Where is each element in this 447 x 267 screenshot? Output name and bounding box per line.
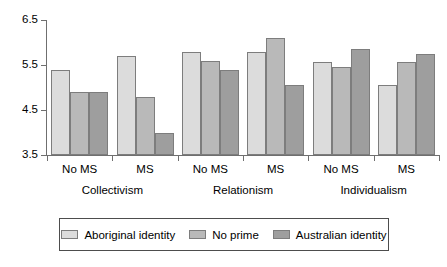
bar xyxy=(397,62,416,155)
bar xyxy=(201,61,220,156)
legend-label: Aboriginal identity xyxy=(84,229,175,241)
bar xyxy=(70,92,89,155)
legend-item: No prime xyxy=(189,229,259,241)
legend-swatch-icon xyxy=(189,230,206,239)
y-axis-tick-label: 3.5 xyxy=(4,149,38,161)
bar xyxy=(351,49,370,155)
x-axis-tick-mark xyxy=(308,156,309,161)
bar xyxy=(378,85,397,155)
bar xyxy=(136,97,155,156)
bar xyxy=(51,70,70,156)
x-axis-tick-mark xyxy=(178,156,179,161)
x-axis-category-label: No MS xyxy=(47,163,112,175)
bar xyxy=(285,85,304,155)
x-axis-category-label: MS xyxy=(243,163,308,175)
x-axis-tick-mark xyxy=(374,156,375,161)
bar xyxy=(247,52,266,156)
x-axis-category-label: MS xyxy=(374,163,439,175)
bar xyxy=(155,133,174,156)
bar xyxy=(220,70,239,156)
plot-area xyxy=(47,20,439,155)
legend-label: No prime xyxy=(212,229,259,241)
bar xyxy=(313,62,332,155)
legend-item: Australian identity xyxy=(273,229,387,241)
bar-chart: 6.55.54.53.5 No MSMSNo MSMSNo MSMS Colle… xyxy=(0,0,447,267)
legend-label: Australian identity xyxy=(296,229,387,241)
y-axis-tick-label: 4.5 xyxy=(4,104,38,116)
x-axis-group-label: Collectivism xyxy=(47,184,178,196)
bar xyxy=(89,92,108,155)
x-axis-tick-mark xyxy=(47,156,48,161)
legend-swatch-icon xyxy=(61,230,78,239)
bar xyxy=(266,38,285,155)
legend: Aboriginal identityNo primeAustralian id… xyxy=(59,218,389,251)
bar xyxy=(182,52,201,156)
x-axis-group-label: Relationism xyxy=(178,184,309,196)
bar xyxy=(416,54,435,155)
bar xyxy=(332,67,351,155)
x-axis-category-label: No MS xyxy=(178,163,243,175)
x-axis-group-label: Individualism xyxy=(308,184,439,196)
x-axis-category-label: No MS xyxy=(308,163,373,175)
bar xyxy=(117,56,136,155)
y-axis-tick-label: 5.5 xyxy=(4,59,38,71)
x-axis-tick-mark xyxy=(112,156,113,161)
x-axis-tick-mark xyxy=(439,156,440,161)
x-axis-tick-mark xyxy=(243,156,244,161)
legend-item: Aboriginal identity xyxy=(61,229,175,241)
y-axis-tick-label: 6.5 xyxy=(4,14,38,26)
legend-swatch-icon xyxy=(273,230,290,239)
x-axis-category-label: MS xyxy=(112,163,177,175)
